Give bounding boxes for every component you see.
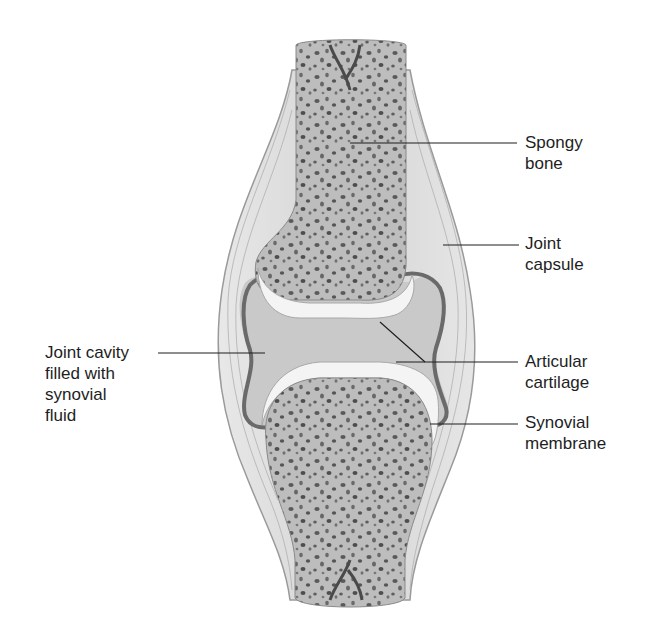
synovial-joint-diagram <box>0 0 650 644</box>
label-synovial-membrane: Synovial membrane <box>525 412 606 454</box>
label-joint-capsule: Joint capsule <box>525 233 584 275</box>
label-articular-cartilage: Articular cartilage <box>525 351 589 393</box>
label-spongy-bone: Spongy bone <box>525 132 583 174</box>
label-joint-cavity: Joint cavity filled with synovial fluid <box>45 342 129 426</box>
